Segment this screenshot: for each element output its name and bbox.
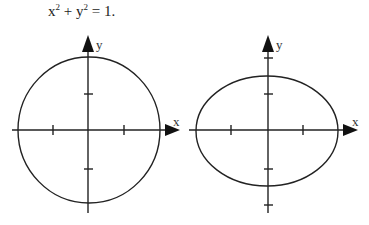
y-axis-arrow-icon — [262, 35, 274, 52]
x-axis-label: x — [173, 114, 180, 129]
figure-canvas: x y x y — [0, 0, 369, 225]
x-axis-label: x — [352, 114, 359, 129]
circle-plot — [12, 48, 170, 213]
y-axis-label: y — [276, 37, 283, 52]
ellipse-plot — [189, 48, 348, 213]
y-axis-label: y — [96, 37, 103, 52]
y-axis-arrow-icon — [82, 35, 94, 52]
